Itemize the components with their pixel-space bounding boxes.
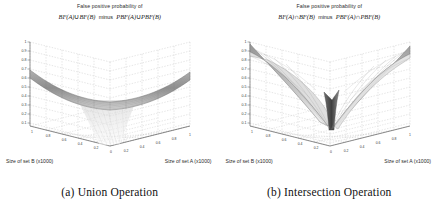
panel-union-x-axis-label: Size of set A (x1000) [165, 158, 212, 164]
svg-text:0.4: 0.4 [78, 142, 83, 146]
svg-text:0.2: 0.2 [343, 149, 348, 153]
expr-minus-word: minus [99, 14, 113, 20]
expr-term-pbf-a-2: PBF(A) [336, 13, 356, 20]
svg-text:0.6: 0.6 [22, 76, 27, 80]
svg-text:0.1: 0.1 [22, 121, 27, 125]
svg-text:0.9: 0.9 [241, 49, 246, 53]
svg-text:0.8: 0.8 [22, 58, 27, 62]
svg-text:0.6: 0.6 [375, 141, 380, 145]
surface-plot-intersection: 1 0.9 0.8 0.7 0.6 0.5 0.4 0.3 0.2 0.1 [228, 30, 432, 158]
svg-text:0.2: 0.2 [94, 146, 99, 150]
panel-union-caption: (a) Union Operation [0, 186, 220, 198]
expr-term-bf-a-2: BF(A) [278, 13, 294, 20]
svg-text:0.2: 0.2 [22, 112, 27, 116]
panel-intersection-title-expression: BF(A)∩BF(B) minus PBF(A)∩PBF(B) [220, 12, 439, 22]
expr-term-bf-b: BF(B) [79, 13, 95, 20]
svg-text:0.2: 0.2 [241, 112, 246, 116]
svg-text:0.8: 0.8 [241, 58, 246, 62]
svg-text:1: 1 [409, 133, 411, 137]
svg-text:0.7: 0.7 [22, 67, 27, 71]
panel-union-title: False positive probability of BF(A)∪BF(B… [0, 3, 220, 22]
panel-intersection-y-axis-label: Size of set B (x1000) [226, 158, 273, 164]
panel-intersection-title: False positive probability of BF(A)∩BF(B… [220, 3, 439, 22]
svg-text:1: 1 [25, 40, 27, 44]
svg-text:0.7: 0.7 [241, 67, 246, 71]
svg-text:0.6: 0.6 [241, 76, 246, 80]
svg-text:0.2: 0.2 [124, 149, 129, 153]
panel-intersection-x-axis-label: Size of set A (x1000) [384, 158, 431, 164]
expr-term-pbf-b: PBF(B) [141, 13, 161, 20]
surface-intersection-mesh [250, 44, 410, 130]
svg-text:0.4: 0.4 [241, 94, 246, 98]
svg-text:0.8: 0.8 [391, 137, 396, 141]
expr-minus-word-2: minus [318, 14, 332, 20]
svg-text:0.1: 0.1 [241, 121, 246, 125]
panel-intersection-caption: (b) Intersection Operation [220, 186, 439, 198]
figure-two-panel-surface-plots: False positive probability of BF(A)∪BF(B… [0, 0, 439, 204]
svg-text:0.9: 0.9 [22, 49, 27, 53]
svg-text:1: 1 [189, 133, 191, 137]
surface-plot-union: 1 0.9 0.8 0.7 0.6 0.5 0.4 0.3 0.2 0.1 [8, 30, 212, 158]
panel-intersection: False positive probability of BF(A)∩BF(B… [220, 0, 439, 204]
panel-intersection-title-line1: False positive probability of [220, 3, 439, 10]
z-axis: 1 0.9 0.8 0.7 0.6 0.5 0.4 0.3 0.2 0.1 [22, 40, 31, 126]
panel-union-y-axis-label: Size of set B (x1000) [6, 158, 53, 164]
expr-term-bf-a: BF(A) [59, 13, 75, 20]
svg-text:1: 1 [31, 130, 33, 134]
svg-text:0.3: 0.3 [241, 103, 246, 107]
surface-plot-union-svg: 1 0.9 0.8 0.7 0.6 0.5 0.4 0.3 0.2 0.1 [8, 30, 212, 158]
svg-text:0.4: 0.4 [140, 145, 145, 149]
z-axis-tick-labels: 1 0.9 0.8 0.7 0.6 0.5 0.4 0.3 0.2 0.1 [22, 40, 27, 125]
expr-term-pbf-b-2: PBF(B) [360, 13, 380, 20]
svg-text:0: 0 [110, 150, 112, 154]
svg-text:0.2: 0.2 [313, 146, 318, 150]
svg-text:0: 0 [330, 150, 332, 154]
grid-back-walls [250, 42, 410, 146]
panel-union-title-expression: BF(A)∪BF(B) minus PBF(A)∪PBF(B) [0, 12, 220, 22]
svg-text:1: 1 [244, 40, 246, 44]
svg-text:0.6: 0.6 [62, 138, 67, 142]
svg-text:0.8: 0.8 [172, 137, 177, 141]
z-axis: 1 0.9 0.8 0.7 0.6 0.5 0.4 0.3 0.2 0.1 [241, 40, 250, 126]
surface-plot-intersection-svg: 1 0.9 0.8 0.7 0.6 0.5 0.4 0.3 0.2 0.1 [228, 30, 432, 158]
panel-union-title-line1: False positive probability of [0, 3, 220, 10]
expr-term-pbf-a: PBF(A) [116, 13, 136, 20]
svg-text:0.3: 0.3 [22, 103, 27, 107]
svg-text:0.8: 0.8 [265, 134, 270, 138]
panel-union: False positive probability of BF(A)∪BF(B… [0, 0, 220, 204]
svg-text:0.4: 0.4 [297, 142, 302, 146]
svg-text:0.4: 0.4 [359, 145, 364, 149]
svg-text:1: 1 [251, 130, 253, 134]
svg-text:0.8: 0.8 [46, 134, 51, 138]
svg-text:0.4: 0.4 [22, 94, 27, 98]
svg-text:0.5: 0.5 [241, 85, 246, 89]
expr-term-bf-b-2: BF(B) [299, 13, 315, 20]
svg-text:0.6: 0.6 [281, 138, 286, 142]
z-axis-tick-labels: 1 0.9 0.8 0.7 0.6 0.5 0.4 0.3 0.2 0.1 [241, 40, 246, 125]
svg-text:0.5: 0.5 [22, 85, 27, 89]
svg-text:0.6: 0.6 [156, 141, 161, 145]
y-axis-tick-labels: 1 0.8 0.6 0.4 0.2 0 [251, 130, 332, 154]
